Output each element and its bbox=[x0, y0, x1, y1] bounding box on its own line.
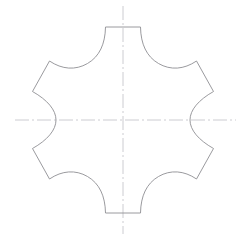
drawing-canvas bbox=[0, 0, 246, 240]
rosette-drawing-svg bbox=[0, 0, 246, 240]
